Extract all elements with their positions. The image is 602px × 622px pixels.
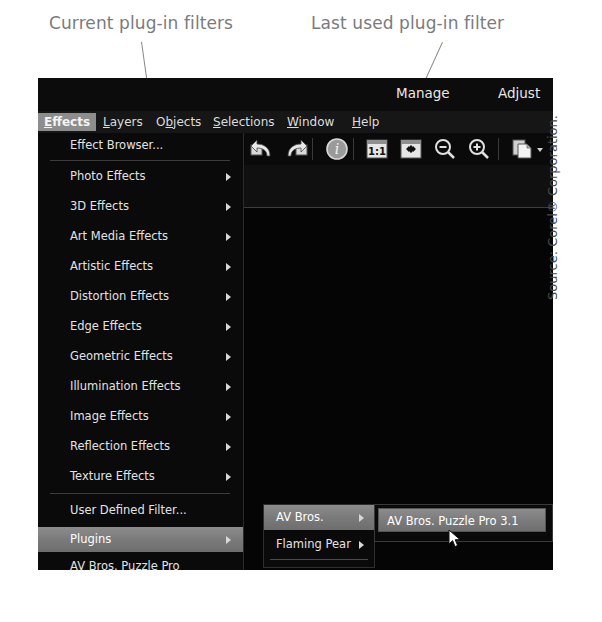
info-icon[interactable]: i <box>325 137 349 161</box>
redo-icon[interactable] <box>284 137 308 161</box>
plugins-submenu: AV Bros. Flaming Pear <box>263 504 375 568</box>
menubar-item-effects-rest: ffects <box>52 115 90 129</box>
menubar-item-effects[interactable]: Effects <box>38 113 96 131</box>
menu-item-edge-effects[interactable]: Edge Effects <box>38 314 243 339</box>
menubar-item-window-rest: indow <box>299 115 335 129</box>
menubar-item-layers-rest: ayers <box>110 115 143 129</box>
callout-label-last-used-plugin-filter: Last used plug-in filter <box>311 13 504 33</box>
menubar-item-objects[interactable]: Objects <box>150 113 207 131</box>
menu-item-label: Effect Browser... <box>70 138 163 152</box>
menu-item-label: Artistic Effects <box>70 259 153 273</box>
menu-item-3d-effects[interactable]: 3D Effects <box>38 194 243 219</box>
menu-item-geometric-effects[interactable]: Geometric Effects <box>38 344 243 369</box>
copy-icon[interactable] <box>510 137 534 161</box>
menubar-item-objects-rest: jects <box>173 115 201 129</box>
chevron-right-icon <box>226 353 231 361</box>
menubar-item-selections-rest: elections <box>221 115 275 129</box>
menu-item-label: Illumination Effects <box>70 379 181 393</box>
menu-item-label: User Defined Filter... <box>70 503 187 517</box>
menubar-item-window[interactable]: Window <box>281 113 340 131</box>
menu-separator-2 <box>50 493 230 494</box>
menu-item-label: Reflection Effects <box>70 439 170 453</box>
submenu-separator <box>270 559 368 560</box>
chevron-right-icon <box>226 413 231 421</box>
chevron-right-icon <box>226 536 231 544</box>
menu-item-artistic-effects[interactable]: Artistic Effects <box>38 254 243 279</box>
chevron-right-icon <box>226 233 231 241</box>
menu-item-label: Texture Effects <box>70 469 155 483</box>
chevron-right-icon <box>226 323 231 331</box>
svg-text:1:1: 1:1 <box>368 146 386 157</box>
submenu-item-label: AV Bros. Puzzle Pro 3.1 <box>387 514 519 528</box>
source-credit: Source: Corel® Corporation. <box>545 20 560 300</box>
menubar-item-selections[interactable]: Selections <box>207 113 281 131</box>
menu-item-label: Distortion Effects <box>70 289 169 303</box>
av-bros-submenu: AV Bros. Puzzle Pro 3.1 <box>374 504 553 542</box>
menu-item-plugins[interactable]: Plugins <box>38 527 243 552</box>
submenu-item-av-bros[interactable]: AV Bros. <box>264 505 374 530</box>
application-window: Manage Adjust Effects Layers Objects Sel… <box>38 78 553 570</box>
menu-item-av-bros-puzzle-pro[interactable]: AV Bros. Puzzle Pro <box>38 554 243 579</box>
fit-to-window-icon[interactable] <box>399 137 423 161</box>
menu-item-reflection-effects[interactable]: Reflection Effects <box>38 434 243 459</box>
menu-item-label: Geometric Effects <box>70 349 173 363</box>
submenu-item-label: Flaming Pear <box>276 537 351 551</box>
chevron-right-icon <box>226 293 231 301</box>
menu-item-image-effects[interactable]: Image Effects <box>38 404 243 429</box>
menu-item-label: Image Effects <box>70 409 149 423</box>
callout-label-current-plugin-filters: Current plug-in filters <box>49 13 233 33</box>
title-bar: Manage Adjust <box>38 78 553 112</box>
menu-separator-1 <box>50 160 230 161</box>
toolbar-separator-1 <box>312 138 313 160</box>
submenu-item-av-bros-puzzle-pro-31[interactable]: AV Bros. Puzzle Pro 3.1 <box>378 508 546 532</box>
submenu-item-flaming-pear[interactable]: Flaming Pear <box>264 532 374 557</box>
chevron-right-icon <box>226 263 231 271</box>
menu-item-user-defined-filter[interactable]: User Defined Filter... <box>38 498 243 523</box>
workspace-tab-manage[interactable]: Manage <box>396 85 450 101</box>
menu-item-label: Edge Effects <box>70 319 142 333</box>
menu-item-label: Photo Effects <box>70 169 146 183</box>
menubar-item-help-rest: elp <box>361 115 379 129</box>
menu-item-distortion-effects[interactable]: Distortion Effects <box>38 284 243 309</box>
chevron-right-icon <box>226 173 231 181</box>
chevron-right-icon <box>226 473 231 481</box>
mouse-cursor-icon <box>448 529 462 549</box>
toolbar-separator-3 <box>498 138 499 160</box>
toolbar-separator-2 <box>353 138 354 160</box>
dropdown-arrow-icon[interactable] <box>535 137 545 161</box>
svg-text:i: i <box>335 141 339 157</box>
chevron-right-icon <box>226 443 231 451</box>
menu-item-label: Plugins <box>70 532 111 546</box>
submenu-item-label: AV Bros. <box>276 510 324 524</box>
chevron-right-icon <box>359 514 364 522</box>
chevron-right-icon <box>226 383 231 391</box>
zoom-out-icon[interactable] <box>433 137 457 161</box>
chevron-right-icon <box>226 203 231 211</box>
menu-item-label: Art Media Effects <box>70 229 168 243</box>
zoom-actual-size-icon[interactable]: 1:1 <box>365 137 389 161</box>
menu-item-label: 3D Effects <box>70 199 129 213</box>
zoom-in-icon[interactable] <box>467 137 491 161</box>
effects-dropdown-menu: Effect Browser... Photo Effects 3D Effec… <box>38 133 244 570</box>
menubar-item-layers[interactable]: Layers <box>97 113 149 131</box>
workspace-tab-adjust[interactable]: Adjust <box>498 85 540 101</box>
menu-item-art-media-effects[interactable]: Art Media Effects <box>38 224 243 249</box>
menu-item-illumination-effects[interactable]: Illumination Effects <box>38 374 243 399</box>
chevron-right-icon <box>359 541 364 549</box>
menu-item-texture-effects[interactable]: Texture Effects <box>38 464 243 489</box>
menu-item-photo-effects[interactable]: Photo Effects <box>38 164 243 189</box>
undo-icon[interactable] <box>250 137 274 161</box>
menu-bar: Effects Layers Objects Selections Window… <box>38 111 553 133</box>
menu-item-effect-browser[interactable]: Effect Browser... <box>38 133 243 158</box>
menubar-item-help[interactable]: Help <box>346 113 385 131</box>
menu-item-label: AV Bros. Puzzle Pro <box>70 559 180 573</box>
